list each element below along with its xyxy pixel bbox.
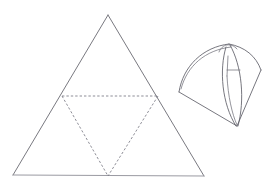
outer-left-arc bbox=[179, 44, 229, 92]
dashed-edge-left bbox=[62, 96, 108, 176]
inner-inverted-triangle bbox=[62, 96, 158, 176]
outer-right-arc bbox=[229, 44, 261, 70]
outer-equilateral-triangle bbox=[13, 15, 204, 176]
inner-lower-arc bbox=[227, 76, 237, 125]
inner-vertical-segment bbox=[227, 56, 228, 76]
central-spindle-right-curve bbox=[230, 45, 242, 126]
dashed-edge-right bbox=[108, 96, 158, 176]
curved-tetrahedral-solid bbox=[179, 44, 261, 126]
central-spindle-left-curve bbox=[222, 47, 236, 126]
triangle-edge-apex-to-bottom-right bbox=[108, 15, 204, 176]
geometric-figure-canvas bbox=[0, 0, 279, 187]
